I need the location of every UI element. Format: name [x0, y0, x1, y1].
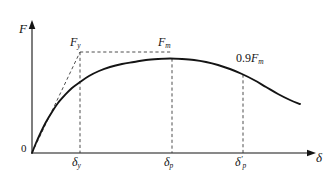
- ninety-percent-peak-force-label: 0.9Fm: [236, 52, 264, 64]
- chart-canvas: [0, 0, 335, 177]
- x-axis-arrowhead: [307, 150, 316, 157]
- delta-p-prime-tick-label: δ′p: [235, 156, 246, 168]
- y-axis-arrowhead: [29, 20, 36, 29]
- peak-force-label: Fm: [158, 36, 171, 48]
- load-displacement-figure: F δ 0 Fy Fm 0.9Fm δy δp δ′p: [0, 0, 335, 177]
- origin-label: 0: [21, 143, 27, 154]
- delta-p-tick-label: δp: [164, 156, 173, 168]
- y-axis-label: F: [19, 22, 27, 35]
- delta-y-tick-label: δy: [72, 156, 81, 168]
- dashed-construction-group: [32, 52, 243, 153]
- yield-force-label: Fy: [70, 36, 81, 48]
- x-axis-label: δ: [316, 151, 322, 164]
- load-displacement-curve: [32, 59, 300, 154]
